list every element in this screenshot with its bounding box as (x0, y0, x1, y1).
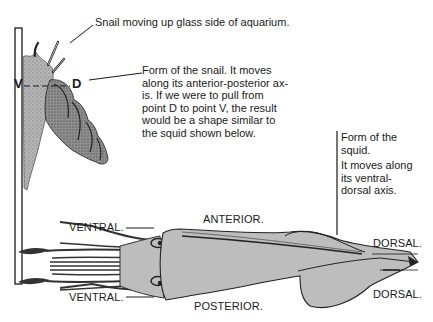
snail-description-line: the squid shown below. (142, 127, 312, 140)
squid-description: It moves along its ventral- dorsal axis. (341, 159, 433, 197)
squid-description-line: its ventral- (341, 172, 433, 185)
ventral-top-label: VENTRAL. (69, 221, 124, 233)
dorsal-bottom-label: DORSAL. (373, 288, 422, 300)
snail-description-line: point D to point V, the result (142, 102, 312, 115)
posterior-label: POSTERIOR. (194, 300, 263, 312)
snail-description-line: along its anterior-posterior ax- (142, 77, 312, 90)
ventral-bottom-label: VENTRAL. (69, 291, 124, 303)
snail-drawing (23, 25, 142, 190)
snail-description: Form of the snail. It moves along its an… (142, 64, 312, 140)
snail-description-line: would be a shape similar to (142, 114, 312, 127)
snail-description-line: is. If we were to pull from (142, 89, 312, 102)
squid-title-line: Form of the (341, 131, 433, 144)
squid-title-line: squid. (341, 144, 433, 157)
point-d-label: D (72, 76, 81, 91)
squid-title: Form of the squid. (341, 131, 433, 156)
snail-caption: Snail moving up glass side of aquarium. (95, 16, 289, 29)
snail-description-line: Form of the snail. It moves (142, 64, 312, 77)
squid-description-line: dorsal axis. (341, 184, 433, 197)
anterior-label: ANTERIOR. (203, 213, 264, 225)
point-v-label: V (14, 76, 23, 91)
dorsal-top-label: DORSAL. (373, 237, 422, 249)
aquarium-glass (15, 28, 22, 284)
squid-description-line: It moves along (341, 159, 433, 172)
